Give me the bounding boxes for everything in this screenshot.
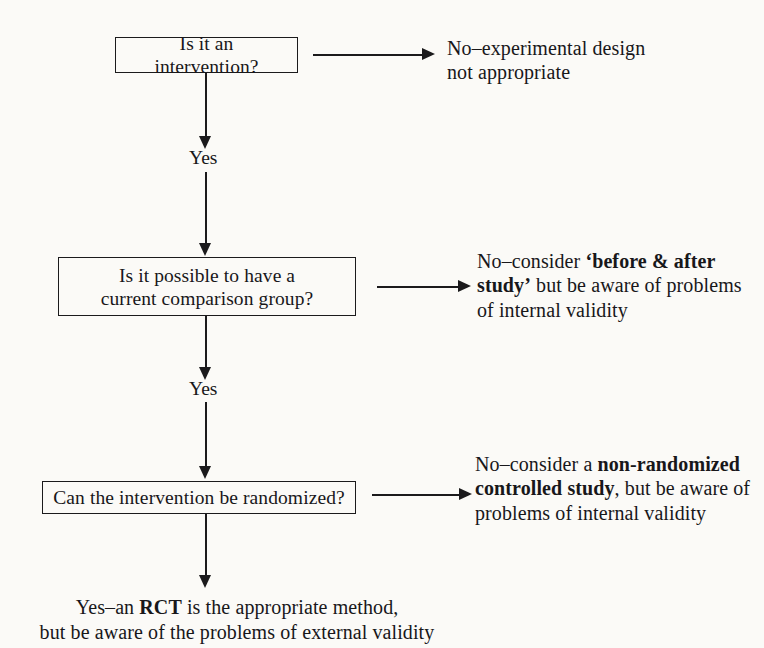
flow-line-1b (205, 172, 207, 245)
branch-3-prefix: No–consider a (475, 453, 597, 475)
flow-line-2b (205, 402, 207, 468)
decision-box-current-comparison-group: Is it possible to have a current compari… (58, 257, 356, 316)
conclusion-line1-suffix: is the appropriate method, (182, 596, 399, 618)
branch-text-before-after-study: No–consider ‘before & after study’ but b… (477, 249, 752, 322)
decision-box-is-it-an-intervention: Is it an intervention? (115, 37, 298, 73)
branch-2-prefix: No–consider (477, 250, 585, 272)
decision-box-2-line2: current comparison group? (101, 288, 314, 309)
decision-box-2-line1: Is it possible to have a (119, 265, 295, 286)
branch-line-2 (377, 286, 459, 288)
branch-text-non-randomized-controlled-study: No–consider a non-randomized controlled … (475, 452, 755, 525)
flow-line-1a (205, 73, 207, 139)
decision-box-2-label: Is it possible to have a current compari… (91, 264, 324, 310)
branch-arrowhead-1 (422, 48, 435, 60)
branch-line-3 (372, 494, 460, 496)
edge-label-yes-1: Yes (189, 148, 217, 168)
branch-text-no-experimental-line2: not appropriate (447, 60, 737, 84)
conclusion-line1-prefix: Yes–an (76, 596, 140, 618)
branch-text-no-experimental-design: No–experimental design not appropriate (447, 36, 737, 85)
decision-box-can-intervention-be-randomized: Can the intervention be randomized? (42, 481, 356, 514)
conclusion-text: Yes–an RCT is the appropriate method, bu… (22, 595, 452, 645)
edge-label-yes-2: Yes (189, 379, 217, 399)
decision-box-1-label: Is it an intervention? (116, 32, 297, 78)
branch-arrowhead-3 (459, 488, 472, 500)
flow-line-2a (205, 316, 207, 370)
flow-arrowhead-3 (199, 575, 211, 588)
branch-arrowhead-2 (458, 280, 471, 292)
flow-arrowhead-2b (199, 466, 211, 479)
conclusion-line2: but be aware of the problems of external… (22, 620, 452, 645)
flow-line-3 (205, 514, 207, 577)
conclusion-bold-term: RCT (139, 596, 182, 618)
flow-arrowhead-1b (199, 243, 211, 256)
decision-box-3-label: Can the intervention be randomized? (43, 486, 355, 509)
branch-text-no-experimental-line1: No–experimental design (447, 36, 737, 60)
flowchart-canvas: Is it an intervention? No–experimental d… (0, 0, 764, 648)
branch-line-1 (313, 54, 423, 56)
